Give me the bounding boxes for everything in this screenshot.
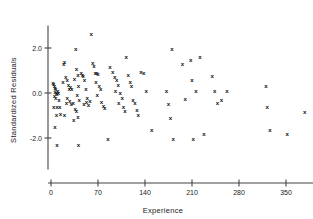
data-point: x — [181, 60, 185, 67]
x-tick-label: 210 — [186, 189, 198, 196]
data-point: x — [70, 85, 74, 92]
data-point: x — [145, 87, 149, 94]
data-point: x — [58, 103, 62, 110]
data-point: x — [194, 87, 198, 94]
plot-canvas: 0701402102803502.00.0-2.0 xxxxxxxxxxxxxx… — [0, 0, 313, 219]
data-point: x — [170, 45, 174, 52]
data-point: x — [55, 141, 59, 148]
data-point: x — [130, 82, 134, 89]
y-axis-label: Standardized Residuals — [9, 57, 18, 143]
data-point: x — [192, 135, 196, 142]
data-point: x — [225, 87, 229, 94]
data-point: x — [213, 87, 217, 94]
x-tick-label: 70 — [94, 189, 102, 196]
data-point: x — [103, 104, 107, 111]
data-point: x — [124, 53, 128, 60]
data-point: x — [264, 82, 268, 89]
data-point: x — [198, 53, 202, 60]
data-point: x — [220, 96, 224, 103]
data-point: x — [189, 56, 193, 63]
data-point: x — [77, 141, 81, 148]
data-point: x — [99, 85, 103, 92]
data-point: x — [77, 96, 81, 103]
data-point: x — [167, 100, 171, 107]
data-point: x — [83, 76, 87, 83]
tick-labels: 0701402102803502.00.0-2.0 — [30, 45, 292, 196]
data-point: x — [65, 99, 69, 106]
data-point: x — [169, 114, 173, 121]
data-point: x — [184, 95, 188, 102]
data-point: x — [202, 130, 206, 137]
y-tick-label: 0.0 — [32, 90, 42, 97]
data-point: x — [150, 126, 154, 133]
scatter-plot-figure: 0701402102803502.00.0-2.0 xxxxxxxxxxxxxx… — [0, 0, 313, 219]
data-point: x — [120, 94, 124, 101]
data-point: x — [72, 116, 76, 123]
data-point: x — [106, 135, 110, 142]
data-points: xxxxxxxxxxxxxxxxxxxxxxxxxxxxxxxxxxxxxxxx… — [51, 30, 307, 148]
data-point: x — [63, 111, 67, 118]
data-point: x — [268, 126, 272, 133]
data-point: x — [84, 85, 88, 92]
data-point: x — [53, 123, 57, 130]
data-point: x — [190, 76, 194, 83]
data-point: x — [96, 70, 100, 77]
data-point: x — [165, 87, 169, 94]
data-point: x — [142, 69, 146, 76]
x-tick-label: 0 — [49, 189, 53, 196]
data-point: x — [265, 103, 269, 110]
data-point: x — [137, 111, 141, 118]
data-point: x — [63, 58, 67, 65]
data-point: x — [90, 30, 94, 37]
data-point: x — [77, 82, 81, 89]
data-point: x — [286, 130, 290, 137]
x-axis-label: Experience — [143, 206, 184, 215]
data-point: x — [171, 135, 175, 142]
x-tick-label: 140 — [139, 189, 151, 196]
data-point: x — [303, 108, 307, 115]
data-point: x — [76, 113, 80, 120]
data-point: x — [123, 107, 127, 114]
x-tick-label: 350 — [280, 189, 292, 196]
data-point: x — [210, 72, 214, 79]
y-tick-label: 2.0 — [32, 45, 42, 52]
data-point: x — [114, 87, 118, 94]
data-point: x — [117, 99, 121, 106]
data-point: x — [133, 99, 137, 106]
y-tick-label: -2.0 — [30, 135, 42, 142]
x-tick-label: 280 — [233, 189, 245, 196]
data-point: x — [74, 45, 78, 52]
data-point: x — [88, 97, 92, 104]
